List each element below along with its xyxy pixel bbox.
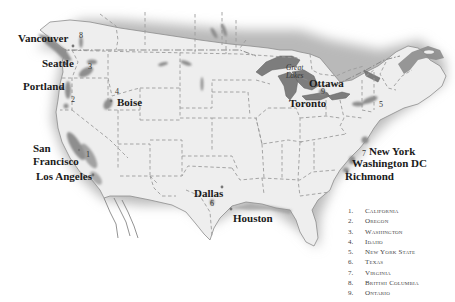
legend-num: 2.	[348, 216, 365, 226]
region-number-9: 9	[321, 88, 325, 96]
great-lakes-label-line2: Lakes	[286, 72, 304, 80]
legend-item: 2.Oregon	[348, 216, 419, 226]
city-label-los-angeles: Los Angeles	[36, 171, 92, 182]
legend-name: New York State	[365, 247, 415, 257]
city-label-ottawa: Ottawa	[309, 78, 344, 89]
region-number-2: 2	[71, 96, 75, 104]
legend-name: Virginia	[365, 268, 391, 278]
legend-name: Idaho	[365, 237, 383, 247]
legend-num: 9.	[348, 288, 365, 298]
city-label-san: San	[33, 142, 79, 155]
region-number-8: 8	[79, 32, 83, 40]
legend-name: Washington	[365, 227, 403, 237]
legend-num: 8.	[348, 278, 365, 288]
city-label-washington-dc: Washington DC	[352, 158, 427, 169]
legend-name: Ontario	[365, 288, 390, 298]
region-number-5: 5	[379, 101, 383, 109]
legend-num: 5.	[348, 247, 365, 257]
legend-num: 6.	[348, 257, 365, 267]
city-label-seattle: Seattle	[42, 58, 74, 69]
city-label-houston: Houston	[233, 213, 273, 224]
legend-name: Oregon	[365, 216, 388, 226]
legend-item: 8.British Columbia	[348, 278, 419, 288]
city-label-francisco: Francisco	[33, 155, 79, 168]
legend-name: California	[365, 206, 399, 216]
city-label-new-york: New York	[369, 146, 415, 157]
region-number-7: 7	[362, 150, 366, 158]
legend-item: 6.Texas	[348, 257, 419, 267]
legend-item: 3.Washington	[348, 227, 419, 237]
region-number-3: 3	[88, 63, 92, 71]
legend-num: 4.	[348, 237, 365, 247]
region-number-1: 1	[86, 151, 90, 159]
legend-num: 3.	[348, 227, 365, 237]
great-lakes-label: Great Lakes	[286, 64, 304, 80]
city-label-san-francisco: San Francisco	[33, 142, 79, 168]
city-label-dallas: Dallas	[194, 188, 223, 199]
city-label-vancouver: Vancouver	[18, 33, 68, 44]
region-number-4: 4	[115, 88, 119, 96]
legend-num: 1.	[348, 206, 365, 216]
legend-item: 7.Virginia	[348, 268, 419, 278]
legend-item: 5.New York State	[348, 247, 419, 257]
city-label-portland: Portland	[23, 81, 65, 92]
legend-num: 7.	[348, 268, 365, 278]
region-number-6: 6	[210, 200, 214, 208]
legend-name: British Columbia	[365, 278, 419, 288]
legend-name: Texas	[365, 257, 383, 267]
baja-peninsula	[104, 198, 138, 238]
city-label-richmond: Richmond	[345, 171, 394, 182]
city-label-boise: Boise	[117, 97, 142, 108]
city-label-toronto: Toronto	[289, 98, 326, 109]
legend: 1.California 2.Oregon 3.Washington 4.Ida…	[348, 206, 419, 299]
legend-item: 9.Ontario	[348, 288, 419, 298]
legend-item: 4.Idaho	[348, 237, 419, 247]
legend-item: 1.California	[348, 206, 419, 216]
